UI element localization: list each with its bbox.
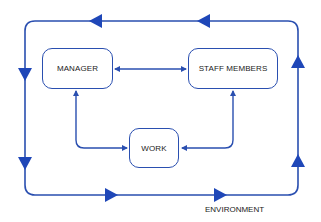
- work-label: WORK: [141, 144, 166, 153]
- staff-members-node: STAFF MEMBERS: [188, 48, 278, 89]
- manager-label: MANAGER: [57, 64, 98, 73]
- arrow-up-icon: [291, 154, 305, 167]
- environment-label: ENVIRONMENT: [205, 205, 264, 214]
- work-node: WORK: [129, 128, 179, 168]
- arrow-up-icon: [291, 55, 305, 68]
- environment-diagram: MANAGER STAFF MEMBERS WORK ENVIRONMENT: [0, 0, 321, 222]
- connector-manager-work: [76, 91, 127, 148]
- diagram-connectors: [0, 0, 321, 222]
- arrow-left-icon: [89, 14, 102, 28]
- arrow-right-icon: [105, 188, 118, 202]
- arrow-down-icon: [18, 68, 32, 81]
- manager-node: MANAGER: [42, 48, 113, 89]
- outer-loop-arrows: [18, 14, 305, 202]
- arrow-left-icon: [197, 14, 210, 28]
- staff-members-label: STAFF MEMBERS: [199, 64, 268, 73]
- arrow-right-icon: [214, 188, 227, 202]
- connector-staff-work: [182, 91, 233, 148]
- arrow-down-icon: [18, 157, 32, 170]
